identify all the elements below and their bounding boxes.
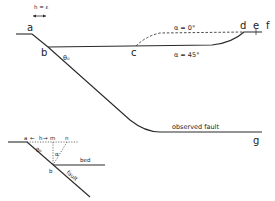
inset-bed-label: bed: [80, 157, 90, 163]
inset-point-a-label: a: [24, 135, 27, 141]
point-c-label: c: [131, 47, 137, 58]
point-d-label: d: [240, 20, 246, 31]
scale-label: h = ε: [34, 4, 49, 10]
theta-label: θ₀: [63, 54, 70, 62]
inset-point-b-label: b: [49, 168, 53, 174]
inset-arrow-left: ←: [30, 135, 35, 141]
inset-diagram: a ← h → m n θ₀ α b bed fault: [8, 135, 105, 197]
point-f-label: f: [266, 20, 270, 31]
main-diagram: a b θ₀ c d e f α = 0° α = 45° observed f…: [16, 20, 270, 146]
point-a-label: a: [27, 22, 33, 33]
inset-point-n-label: n: [65, 135, 69, 141]
fault-geometry-diagram: h = ε a b θ₀ c d e f α = 0° α = 45° obse…: [0, 0, 275, 201]
alpha0-label: α = 0°: [174, 24, 195, 32]
inset-arrow-right: →: [43, 135, 48, 141]
point-e-label: e: [253, 20, 259, 31]
point-g-label: g: [253, 135, 259, 146]
point-b-label: b: [41, 47, 47, 58]
inset-point-m-label: m: [50, 135, 55, 141]
observed-fault-line: [32, 34, 262, 132]
inset-theta-label: θ₀: [36, 147, 42, 153]
bed-alpha0-curve: [136, 32, 244, 46]
observed-fault-label: observed fault: [172, 123, 219, 131]
inset-alpha-label: α: [55, 151, 59, 157]
scale-indicator: h = ε: [33, 4, 49, 18]
alpha45-label: α = 45°: [174, 51, 199, 59]
inset-fault-label: fault: [65, 169, 79, 182]
